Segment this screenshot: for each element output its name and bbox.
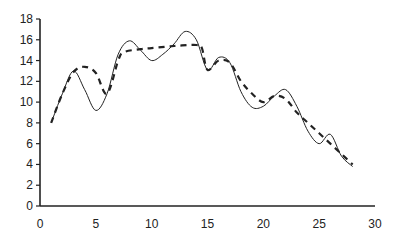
x-tick-label: 25 [312,217,326,231]
y-tick-label: 0 [26,199,33,213]
x-tick-label: 15 [201,217,215,231]
y-tick-label: 2 [26,178,33,192]
x-tick-label: 0 [37,217,44,231]
y-tick-label: 16 [20,33,34,47]
y-tick-label: 18 [20,12,34,26]
y-tick-label: 14 [20,54,34,68]
series-lines [51,31,353,166]
x-tick-label: 20 [257,217,271,231]
y-tick-label: 8 [26,116,33,130]
y-tick-label: 10 [20,95,34,109]
x-tick-label: 5 [92,217,99,231]
y-tick-label: 4 [26,157,33,171]
y-axis-ticks: 024681012141618 [20,12,40,213]
x-tick-label: 10 [145,217,159,231]
line-chart: 024681012141618 051015202530 [0,0,404,244]
x-tick-label: 30 [368,217,382,231]
series-dashed-line [51,45,353,165]
y-tick-label: 12 [20,74,34,88]
x-axis-ticks: 051015202530 [37,217,382,231]
y-tick-label: 6 [26,137,33,151]
